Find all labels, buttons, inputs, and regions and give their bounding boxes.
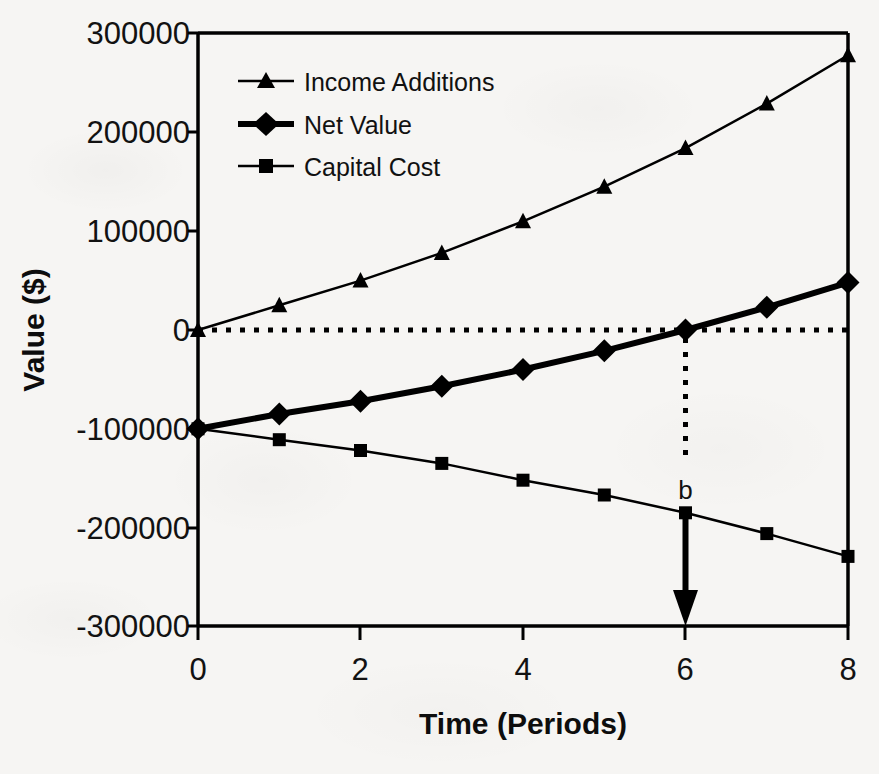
capital-cost-line (198, 429, 848, 557)
breakeven-label-b: b (678, 475, 692, 505)
income-additions-line (198, 55, 848, 330)
income-additions-markers (190, 47, 856, 337)
income-additions-point-7 (759, 95, 775, 111)
y-axis-title: Value ($) (17, 268, 50, 391)
series-capital-cost (192, 422, 855, 563)
legend-label-income-additions: Income Additions (304, 68, 494, 96)
legend-entry-capital-cost[interactable]: Capital Cost (238, 153, 440, 181)
series-income-additions (190, 47, 856, 337)
net-value-point-4 (512, 358, 535, 381)
capital-cost-point-2 (354, 444, 367, 457)
net-value-point-3 (430, 375, 453, 398)
income-additions-point-3 (434, 244, 450, 260)
square-marker-icon (259, 159, 273, 173)
legend-entry-income-additions[interactable]: Income Additions (238, 68, 494, 96)
x-tick-label-2: 2 (351, 652, 368, 687)
capital-cost-point-1 (273, 433, 286, 446)
legend-label-capital-cost: Capital Cost (304, 153, 440, 181)
x-tick-label-8: 8 (839, 652, 856, 687)
income-additions-point-6 (678, 140, 694, 156)
net-value-markers (187, 271, 860, 440)
capital-cost-point-5 (598, 489, 611, 502)
capital-cost-point-8 (842, 550, 855, 563)
series-net-value (187, 271, 860, 440)
chart-page: 300000 200000 100000 0 -100000 -200000 -… (0, 0, 879, 774)
breakeven-annotation: b (673, 338, 698, 626)
x-axis-title: Time (Periods) (419, 707, 627, 740)
capital-cost-point-7 (760, 527, 773, 540)
x-tick-label-6: 6 (676, 652, 693, 687)
income-additions-point-5 (596, 178, 612, 194)
y-tick-label-0: 0 (173, 313, 190, 348)
chart-legend: Income Additions Net Value Capital Cost (238, 68, 494, 181)
value-vs-time-line-chart: 300000 200000 100000 0 -100000 -200000 -… (0, 0, 879, 774)
y-axis-tick-labels: 300000 200000 100000 0 -100000 -200000 -… (76, 16, 190, 644)
capital-cost-point-6 (679, 506, 692, 519)
y-tick-label-200000: 200000 (87, 115, 190, 150)
net-value-point-5 (593, 339, 616, 362)
net-value-line (198, 283, 848, 429)
capital-cost-point-3 (435, 457, 448, 470)
x-axis-ticks (198, 626, 848, 640)
legend-label-net-value: Net Value (304, 111, 412, 139)
y-tick-label-neg200000: -200000 (76, 511, 190, 546)
y-tick-label-neg300000: -300000 (76, 609, 190, 644)
net-value-point-7 (755, 296, 778, 319)
y-tick-label-neg100000: -100000 (76, 412, 190, 447)
y-tick-label-100000: 100000 (87, 214, 190, 249)
income-additions-point-8 (840, 47, 856, 63)
diamond-marker-icon (253, 112, 279, 136)
capital-cost-markers (192, 422, 855, 563)
net-value-point-1 (268, 403, 291, 426)
breakeven-arrow-head (673, 590, 698, 626)
income-additions-point-4 (515, 213, 531, 229)
x-tick-label-0: 0 (189, 652, 206, 687)
net-value-point-2 (349, 390, 372, 413)
capital-cost-point-4 (517, 474, 530, 487)
x-axis-tick-labels: 0 2 4 6 8 (189, 652, 856, 687)
x-tick-label-4: 4 (514, 652, 531, 687)
y-tick-label-300000: 300000 (87, 16, 190, 51)
net-value-point-8 (837, 271, 860, 294)
legend-entry-net-value[interactable]: Net Value (238, 111, 412, 139)
